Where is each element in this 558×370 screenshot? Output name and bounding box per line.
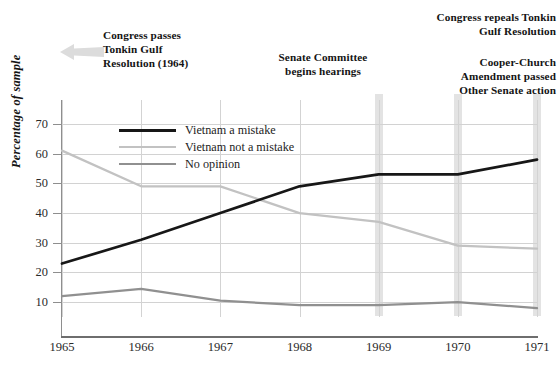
annotation-cooper-church-amendment: Cooper-Church Amendment passed Other Sen… [370, 55, 556, 98]
y-tick-label-70: 70 [36, 116, 48, 131]
y-axis-title: Percentage of sample [9, 150, 24, 168]
x-axis-line [61, 336, 538, 338]
y-tick-mark-50 [53, 183, 61, 184]
x-tick-label-1969: 1969 [366, 340, 391, 355]
x-tick-label-1966: 1966 [129, 340, 154, 355]
legend-label-0: Vietnam a mistake [185, 123, 276, 138]
y-tick-label-60: 60 [36, 146, 48, 161]
chart-legend: Vietnam a mistakeVietnam not a mistakeNo… [119, 122, 294, 173]
annotation-senate-committee-hearings: Senate Committee begins hearings [262, 50, 384, 78]
legend-item-0[interactable]: Vietnam a mistake [119, 122, 294, 138]
y-tick-mark-70 [53, 124, 61, 125]
x-tick-label-1965: 1965 [49, 340, 74, 355]
legend-label-1: Vietnam not a mistake [185, 140, 294, 155]
series-line-no-opinion [62, 289, 537, 308]
y-tick-mark-10 [53, 302, 61, 303]
annotation-tonkin-gulf-resolution: Congress passes Tonkin Gulf Resolution (… [103, 28, 223, 71]
y-tick-label-10: 10 [36, 295, 48, 310]
gridline-x-1971 [537, 100, 538, 317]
series-line-vietnam-a-mistake [62, 160, 537, 264]
x-tick-label-1970: 1970 [445, 340, 470, 355]
legend-item-2[interactable]: No opinion [119, 156, 294, 172]
legend-swatch-icon-1 [119, 146, 176, 148]
legend-swatch-icon-0 [119, 129, 176, 132]
legend-item-1[interactable]: Vietnam not a mistake [119, 139, 294, 155]
legend-swatch-icon-2 [119, 163, 176, 165]
legend-label-2: No opinion [185, 157, 240, 172]
y-tick-label-20: 20 [36, 265, 48, 280]
chart-root: Congress passes Tonkin Gulf Resolution (… [0, 0, 558, 370]
annotation-congress-repeals-tonkin: Congress repeals Tonkin Gulf Resolution [370, 10, 556, 38]
y-tick-mark-20 [53, 272, 61, 273]
x-tick-label-1968: 1968 [287, 340, 312, 355]
y-tick-mark-60 [53, 154, 61, 155]
x-tick-label-1971: 1971 [524, 340, 549, 355]
y-tick-label-40: 40 [36, 206, 48, 221]
x-tick-label-1967: 1967 [208, 340, 233, 355]
y-tick-label-30: 30 [36, 235, 48, 250]
left-arrow-icon [60, 42, 104, 62]
y-tick-label-50: 50 [36, 176, 48, 191]
y-tick-mark-30 [53, 243, 61, 244]
y-tick-mark-40 [53, 213, 61, 214]
